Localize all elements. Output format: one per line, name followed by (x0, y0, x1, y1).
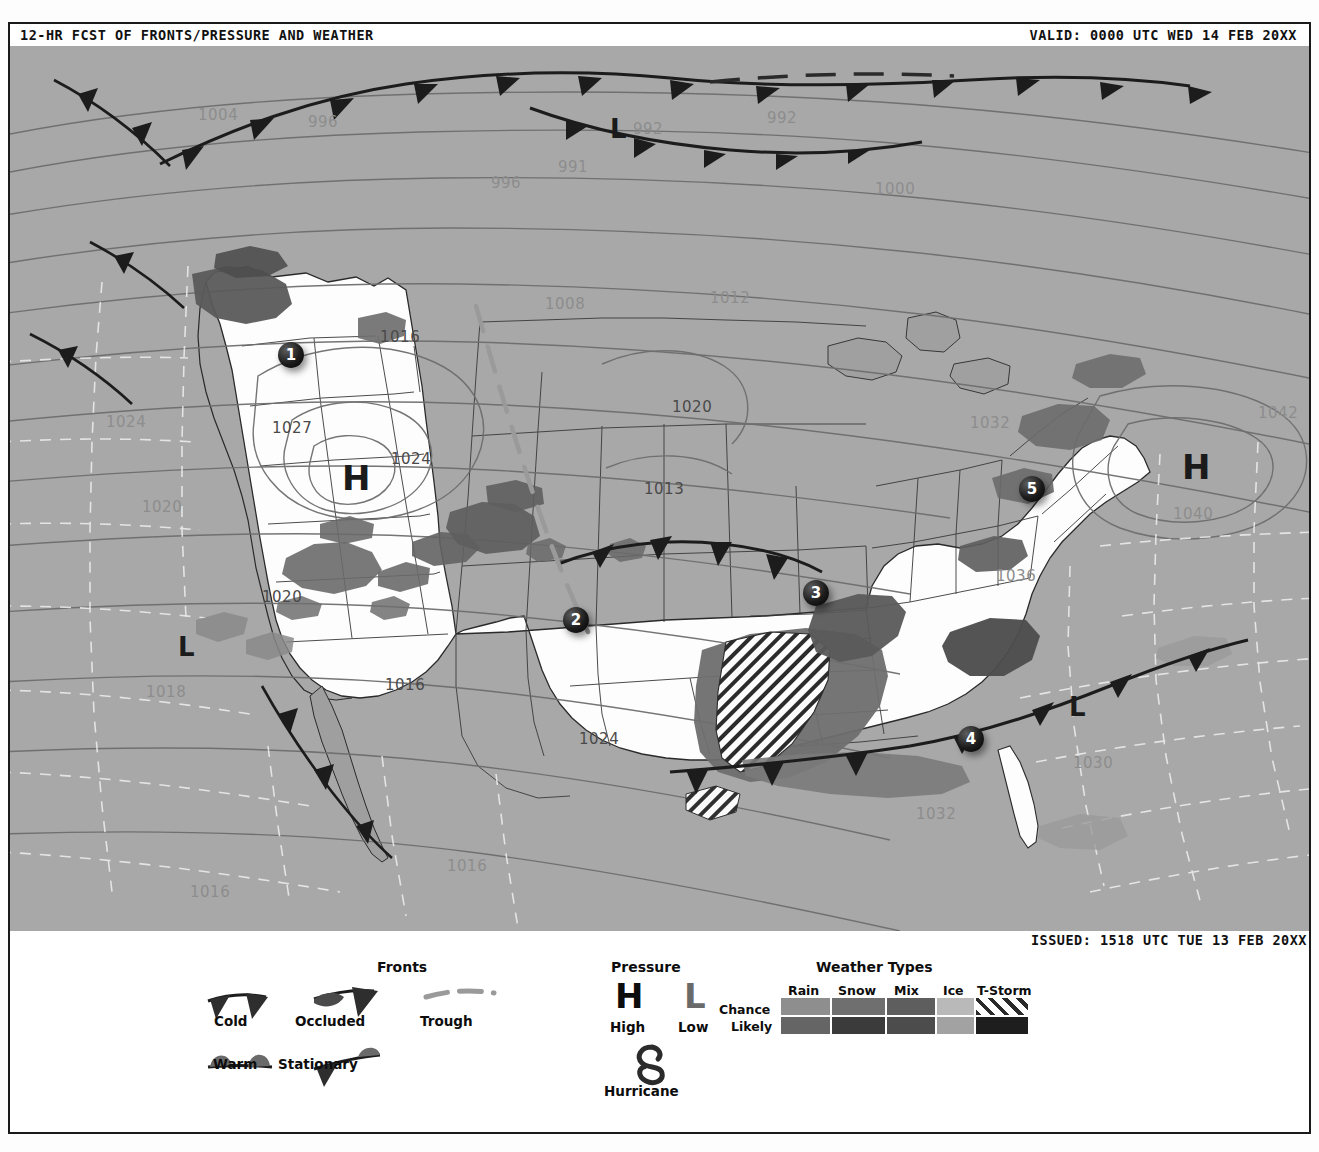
isobar-label: 1008 (545, 295, 585, 313)
isobar-label: 992 (633, 120, 663, 138)
isobar-label: 996 (491, 174, 521, 192)
legend-col-mix: Mix (894, 983, 919, 998)
isobar-label: 1018 (146, 683, 186, 701)
legend-fronts-title: Fronts (377, 959, 427, 975)
isobar-label: 1032 (970, 414, 1010, 432)
weather-forecast-map-page: 12-HR FCST OF FRONTS/PRESSURE AND WEATHE… (0, 0, 1319, 1152)
isobar-label: 1042 (1258, 404, 1298, 422)
legend-weather-types-title: Weather Types (816, 959, 933, 975)
isobar-label: 1030 (1073, 754, 1113, 772)
legend-occluded-label: Occluded (295, 1013, 365, 1029)
isobar-label: 1020 (262, 588, 302, 606)
page-title: 12-HR FCST OF FRONTS/PRESSURE AND WEATHE… (20, 27, 374, 43)
isobar-label: 1013 (644, 480, 684, 498)
isobar-label: 1024 (579, 730, 619, 748)
isobar-label: 991 (558, 158, 588, 176)
isobar-label: 1016 (447, 857, 487, 875)
isobar-label: 996 (308, 113, 338, 131)
legend-col-ice: Ice (943, 983, 964, 998)
isobar-label: 1016 (380, 328, 420, 346)
legend-row-chance: Chance (719, 1002, 770, 1017)
swatch-likely-snow (832, 1017, 885, 1034)
map-marker-3[interactable]: 3 (803, 580, 829, 606)
isobar-label: 1032 (916, 805, 956, 823)
swatch-chance-snow (832, 998, 885, 1015)
legend-warm-label: Warm (213, 1056, 257, 1072)
swatch-likely-mix (887, 1017, 935, 1034)
hurricane-symbol (628, 1041, 678, 1087)
swatch-chance-tstorm (976, 998, 1028, 1015)
forecast-map[interactable]: 1004 996 992 992 991 996 1000 1008 1012 … (10, 46, 1309, 931)
isobar-label: 1027 (272, 419, 312, 437)
map-header: 12-HR FCST OF FRONTS/PRESSURE AND WEATHE… (10, 24, 1309, 46)
low-pressure-center-west: L (178, 634, 195, 660)
valid-time-label: VALID: 0000 UTC WED 14 FEB 20XX (1030, 27, 1297, 43)
isobar-label: 992 (767, 109, 797, 127)
legend-row-likely: Likely (731, 1019, 772, 1034)
map-legend: Fronts (10, 955, 1309, 1100)
isobar-label: 1040 (1173, 505, 1213, 523)
fronts-legend-symbols (200, 979, 620, 1099)
low-pressure-center-north: L (610, 116, 627, 142)
legend-col-rain: Rain (788, 983, 819, 998)
issued-time-label: ISSUED: 1518 UTC TUE 13 FEB 20XX (1031, 932, 1307, 948)
legend-hurricane-label: Hurricane (604, 1083, 679, 1099)
high-pressure-center-west: H (342, 461, 370, 495)
map-marker-4[interactable]: 4 (958, 726, 984, 752)
isobar-label: 1012 (710, 289, 750, 307)
isobar-label: 1016 (385, 676, 425, 694)
swatch-likely-rain (781, 1017, 830, 1034)
isobar-label: 1024 (106, 413, 146, 431)
legend-low-glyph: L (684, 979, 706, 1013)
low-pressure-center-southeast: L (1069, 694, 1086, 720)
map-marker-1[interactable]: 1 (278, 342, 304, 368)
legend-stationary-label: Stationary (278, 1056, 358, 1072)
isobar-label: 1000 (875, 180, 915, 198)
legend-pressure-title: Pressure (611, 959, 681, 975)
swatch-likely-tstorm (976, 1017, 1028, 1034)
map-marker-2[interactable]: 2 (563, 607, 589, 633)
isobar-label: 1016 (190, 883, 230, 901)
isobar-label: 1024 (391, 450, 431, 468)
isobar-label: 1020 (142, 498, 182, 516)
legend-high-label: High (610, 1019, 645, 1035)
swatch-likely-ice (937, 1017, 974, 1034)
legend-col-tstorm: T-Storm (977, 983, 1032, 998)
isobar-label: 1004 (198, 106, 238, 124)
legend-low-label: Low (678, 1019, 708, 1035)
map-marker-5[interactable]: 5 (1019, 476, 1045, 502)
legend-col-snow: Snow (838, 983, 876, 998)
high-pressure-center-east: H (1182, 450, 1210, 484)
isobar-label: 1036 (996, 567, 1036, 585)
isobar-label: 1020 (672, 398, 712, 416)
legend-cold-label: Cold (214, 1013, 247, 1029)
swatch-chance-rain (781, 998, 830, 1015)
swatch-chance-ice (937, 998, 974, 1015)
swatch-chance-mix (887, 998, 935, 1015)
legend-trough-label: Trough (420, 1013, 473, 1029)
legend-high-glyph: H (615, 979, 643, 1013)
trough-symbol (426, 991, 494, 997)
